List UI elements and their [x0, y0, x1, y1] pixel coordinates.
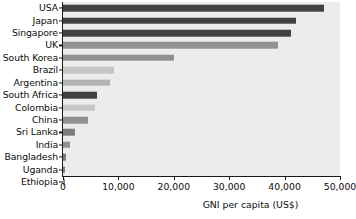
- bar: [63, 92, 97, 99]
- bar: [63, 42, 278, 49]
- y-axis-tick: [59, 45, 63, 46]
- y-axis-tick: [59, 95, 63, 96]
- bar: [63, 17, 296, 24]
- x-axis-tick: [118, 176, 119, 180]
- bar-row: Uganda: [0, 163, 356, 175]
- category-label: UK: [45, 40, 58, 50]
- x-axis-tick: [63, 176, 64, 180]
- bar-row: Bangladesh: [0, 151, 356, 163]
- x-axis-tick-label: 30,000: [213, 181, 246, 192]
- x-axis-tick-label: 40,000: [268, 181, 301, 192]
- x-axis-ticks: 010,00020,00030,00040,00050,000: [0, 176, 356, 200]
- bar: [63, 117, 88, 124]
- bar-row: Sri Lanka: [0, 126, 356, 138]
- x-axis-tick: [340, 176, 341, 180]
- category-label: Argentina: [14, 78, 58, 88]
- category-label: South Africa: [3, 90, 58, 100]
- bar: [63, 5, 324, 12]
- bar: [63, 79, 110, 86]
- x-axis-tick: [174, 176, 175, 180]
- x-axis-title: GNI per capita (US$): [0, 199, 341, 211]
- x-axis-tick-label: 0: [60, 181, 66, 192]
- y-axis-tick: [59, 82, 63, 83]
- bar: [63, 154, 66, 161]
- y-axis-tick: [59, 8, 63, 9]
- bar-rows: USAJapanSingaporeUKSouth KoreaBrazilArge…: [0, 2, 356, 176]
- bar: [63, 142, 70, 149]
- y-axis-tick: [59, 20, 63, 21]
- bar-row: Argentina: [0, 77, 356, 89]
- bar-row: USA: [0, 2, 356, 14]
- category-label: USA: [39, 3, 58, 13]
- bar: [63, 30, 291, 37]
- y-axis-tick: [59, 57, 63, 58]
- x-axis-tick: [285, 176, 286, 180]
- bar-row: South Africa: [0, 89, 356, 101]
- category-label: Brazil: [33, 65, 58, 75]
- x-axis-tick-label: 10,000: [102, 181, 135, 192]
- gni-per-capita-bar-chart: USAJapanSingaporeUKSouth KoreaBrazilArge…: [0, 0, 356, 219]
- x-axis-title-text: GNI per capita (US$): [43, 199, 299, 211]
- y-axis-tick: [59, 132, 63, 133]
- bar-row: Singapore: [0, 27, 356, 39]
- category-label: India: [36, 140, 58, 150]
- bar-row: South Korea: [0, 52, 356, 64]
- category-label: Singapore: [12, 28, 58, 38]
- bar: [63, 55, 174, 62]
- bar-row: Colombia: [0, 101, 356, 113]
- bar-row: Brazil: [0, 64, 356, 76]
- category-label: Sri Lanka: [16, 127, 58, 137]
- y-axis-tick: [59, 33, 63, 34]
- bar-row: India: [0, 139, 356, 151]
- y-axis-tick: [59, 169, 63, 170]
- bar: [63, 104, 95, 111]
- bar-row: Japan: [0, 14, 356, 26]
- category-label: South Korea: [3, 53, 58, 63]
- category-label: Colombia: [15, 103, 58, 113]
- bar-row: UK: [0, 39, 356, 51]
- bar: [63, 166, 65, 173]
- bar: [63, 67, 114, 74]
- y-axis-tick: [59, 70, 63, 71]
- y-axis-tick: [59, 119, 63, 120]
- x-axis-tick: [229, 176, 230, 180]
- y-axis-tick: [59, 107, 63, 108]
- category-label: Uganda: [23, 165, 58, 175]
- bar: [63, 129, 75, 136]
- x-axis-tick-label: 20,000: [158, 181, 191, 192]
- x-axis-tick-label: 50,000: [324, 181, 356, 192]
- category-label: Bangladesh: [4, 152, 58, 162]
- y-axis-tick: [59, 144, 63, 145]
- bar-row: China: [0, 114, 356, 126]
- category-label: China: [32, 115, 58, 125]
- y-axis-tick: [59, 157, 63, 158]
- category-label: Japan: [33, 16, 58, 26]
